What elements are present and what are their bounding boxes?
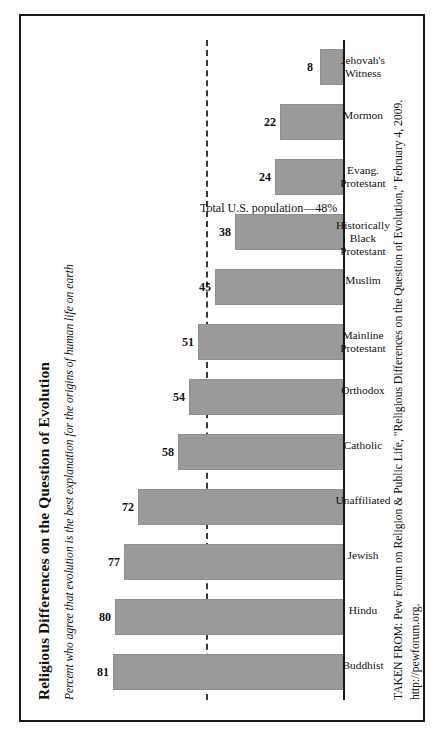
bar (275, 160, 343, 196)
bar-slot: 51 (87, 315, 343, 370)
bar-slot: 77 (87, 535, 343, 590)
bar-value-label: 54 (173, 392, 185, 404)
bar (189, 380, 343, 416)
source-line-2: http://pewforum.org. (408, 60, 425, 700)
bar-slot: 45 (87, 260, 343, 315)
category-label: Mainline Protestant (336, 329, 391, 368)
figure-canvas: Religious Differences on the Question of… (19, 14, 425, 722)
bar-slot: 54 (87, 370, 343, 425)
source-note: TAKEN FROM: Pew Forum on Religion & Publ… (391, 60, 425, 700)
bar (215, 270, 343, 306)
bar-value-label: 72 (122, 502, 134, 514)
bar-value-label: 81 (97, 667, 109, 679)
bar-value-label: 8 (307, 62, 313, 74)
figure-header: Religious Differences on the Question of… (35, 40, 77, 700)
category-label: Evang. Protestant (336, 164, 391, 203)
plot-area: Total U.S. population—48% 81807772585451… (87, 40, 345, 700)
source-line-1: TAKEN FROM: Pew Forum on Religion & Publ… (391, 60, 408, 700)
bar-slot: 72 (87, 480, 343, 535)
bar-slot: 81 (87, 645, 343, 700)
bar-slot: 58 (87, 425, 343, 480)
bar-value-label: 77 (108, 557, 120, 569)
bar (124, 545, 343, 581)
bar (115, 600, 343, 636)
category-label: Jewish (336, 549, 391, 588)
bar (198, 325, 343, 361)
bar-value-label: 45 (199, 282, 211, 294)
bar-slot: 22 (87, 95, 343, 150)
bar-series: 81807772585451453824228 (87, 40, 343, 700)
bar (138, 490, 343, 526)
bar-value-label: 22 (264, 117, 276, 129)
chart-subtitle: Percent who agree that evolution is the … (63, 40, 77, 700)
bar-value-label: 24 (259, 172, 271, 184)
bar (235, 215, 343, 251)
bar (280, 105, 343, 141)
bar (178, 435, 343, 471)
bar-slot: 8 (87, 40, 343, 95)
bar-slot: 38 (87, 205, 343, 260)
bar-slot: 24 (87, 150, 343, 205)
bar-slot: 80 (87, 590, 343, 645)
category-label: Hindu (336, 604, 391, 643)
bar-value-label: 38 (219, 227, 231, 239)
category-label: Jehovah's Witness (336, 54, 391, 93)
category-label: Historically Black Protestant (336, 219, 391, 258)
category-label: Mormon (336, 109, 391, 148)
bar-value-label: 80 (99, 612, 111, 624)
category-label: Muslim (336, 274, 391, 313)
category-axis-labels: BuddhistHinduJewishUnaffiliatedCatholicO… (349, 40, 388, 700)
category-label: Unaffiliated (336, 494, 391, 533)
bar-value-label: 58 (162, 447, 174, 459)
bar-value-label: 51 (182, 337, 194, 349)
category-label: Catholic (336, 439, 391, 478)
page-title: Religious Differences on the Question of… (35, 40, 54, 700)
bar (113, 655, 343, 691)
category-label: Orthodox (336, 384, 391, 423)
category-label: Buddhist (336, 659, 391, 698)
rotated-figure-wrapper: Religious Differences on the Question of… (19, 14, 425, 722)
